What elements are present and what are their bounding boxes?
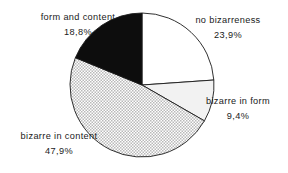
- pie-label-no-bizarreness-value: 23,9%: [176, 29, 280, 42]
- pie-label-bizarre-in-form-name: bizarre in form: [190, 95, 286, 108]
- pie-label-form-and-content-value: 18,8%: [24, 26, 132, 39]
- pie-label-bizarre-in-content-name: bizarre in content: [2, 130, 116, 143]
- pie-chart-figure: form and content 18,8% no bizarreness 23…: [0, 0, 288, 173]
- pie-label-bizarre-in-form: bizarre in form 9,4%: [190, 95, 286, 123]
- pie-label-bizarre-in-content: bizarre in content 47,9%: [2, 130, 116, 158]
- pie-label-form-and-content-name: form and content: [24, 11, 132, 24]
- pie-label-bizarre-in-form-value: 9,4%: [190, 110, 286, 123]
- pie-label-no-bizarreness-name: no bizarreness: [176, 14, 280, 27]
- pie-label-form-and-content: form and content 18,8%: [24, 11, 132, 39]
- pie-label-no-bizarreness: no bizarreness 23,9%: [176, 14, 280, 42]
- pie-label-bizarre-in-content-value: 47,9%: [2, 145, 116, 158]
